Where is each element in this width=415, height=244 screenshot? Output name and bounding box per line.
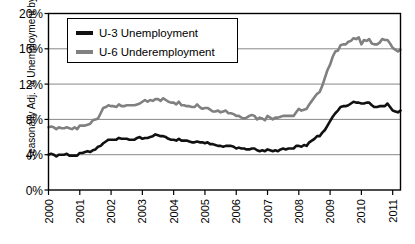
x-tick-label: 2002 bbox=[105, 199, 117, 223]
legend-item-u6: U-6 Underemployment bbox=[76, 42, 237, 61]
x-tick-label: 2007 bbox=[262, 199, 274, 223]
legend-item-u3: U-3 Unemployment bbox=[76, 23, 237, 42]
x-tick-label: 2009 bbox=[324, 199, 336, 223]
x-tick-label: 2006 bbox=[230, 199, 242, 223]
y-tick-label: 12% bbox=[19, 78, 43, 92]
unemployment-line-chart: Seasonally Adj. % Unemployment by Month … bbox=[0, 0, 415, 244]
x-tick-label: 2001 bbox=[74, 199, 86, 223]
x-tick-label: 2000 bbox=[43, 199, 55, 223]
x-tick-label: 2003 bbox=[136, 199, 148, 223]
x-axis-tick-marks bbox=[49, 190, 393, 195]
y-tick-label: 0% bbox=[26, 184, 44, 198]
chart-legend: U-3 Unemployment U-6 Underemployment bbox=[67, 18, 238, 63]
x-tick-label: 2011 bbox=[387, 199, 399, 223]
legend-swatch-u3 bbox=[76, 31, 93, 35]
x-tick-label: 2008 bbox=[293, 199, 305, 223]
y-tick-label: 20% bbox=[19, 7, 43, 21]
legend-label-u3: U-3 Unemployment bbox=[99, 27, 198, 39]
y-tick-label: 4% bbox=[26, 148, 44, 162]
gridlines bbox=[49, 49, 401, 155]
legend-label-u6: U-6 Underemployment bbox=[99, 46, 215, 58]
y-tick-label: 16% bbox=[19, 42, 43, 56]
x-tick-label: 2010 bbox=[355, 199, 367, 223]
y-axis-tick-labels: 0%4%8%12%16%20% bbox=[19, 7, 49, 198]
x-tick-label: 2005 bbox=[199, 199, 211, 223]
x-axis-tick-labels: 2000200120022003200420052006200720082009… bbox=[43, 199, 399, 223]
y-tick-label: 8% bbox=[26, 113, 44, 127]
x-tick-label: 2004 bbox=[168, 199, 180, 223]
legend-swatch-u6 bbox=[76, 50, 93, 54]
